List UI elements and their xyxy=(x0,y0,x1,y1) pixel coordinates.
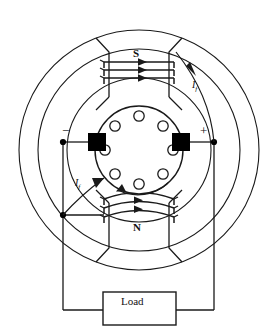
terminal-label-positive: + xyxy=(200,124,207,137)
south-field-winding xyxy=(100,58,174,84)
armature-conductor xyxy=(158,121,168,131)
field-current-label-right: If xyxy=(192,80,197,93)
armature-conductor xyxy=(134,111,144,121)
pole-label-north: N xyxy=(133,222,141,233)
field-current-label-left: If xyxy=(75,178,80,191)
armature-conductor xyxy=(110,169,120,179)
field-current-subscript: f xyxy=(78,183,80,191)
armature-conductor xyxy=(134,179,144,189)
field-current-subscript: f xyxy=(195,85,197,93)
pole-label-south: S xyxy=(133,48,139,59)
brush-negative[interactable] xyxy=(88,133,106,151)
terminal-label-negative: − xyxy=(62,124,69,137)
load-label: Load xyxy=(121,296,144,307)
armature-conductor xyxy=(158,169,168,179)
diagram-canvas: S N If If − + Load xyxy=(0,0,278,332)
brush-positive[interactable] xyxy=(172,133,190,151)
armature-conductor xyxy=(110,121,120,131)
junction-dot xyxy=(60,139,66,145)
